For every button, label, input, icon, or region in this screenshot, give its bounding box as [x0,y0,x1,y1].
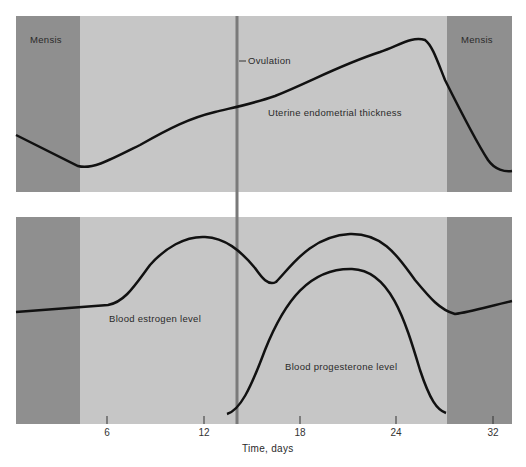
progesterone-label: Blood progesterone level [285,361,397,372]
mensis-label-right: Mensis [461,34,493,45]
tick-label-6: 6 [104,427,110,438]
tick-label-12: 12 [198,427,209,438]
tick-label-18: 18 [294,427,305,438]
mensis-label-left: Mensis [30,34,62,45]
menses-band-left-bottom [16,217,80,424]
x-axis-label: Time, days [242,443,294,454]
ovulation-label: Ovulation [248,55,291,66]
menses-band-right-bottom [447,217,512,424]
bottom-panel-bg [16,217,512,424]
menstrual-cycle-diagram [0,0,526,467]
uterine-label: Uterine endometrial thickness [268,107,402,118]
tick-label-24: 24 [390,427,401,438]
estrogen-label: Blood estrogen level [109,313,201,324]
tick-label-32: 32 [487,427,498,438]
